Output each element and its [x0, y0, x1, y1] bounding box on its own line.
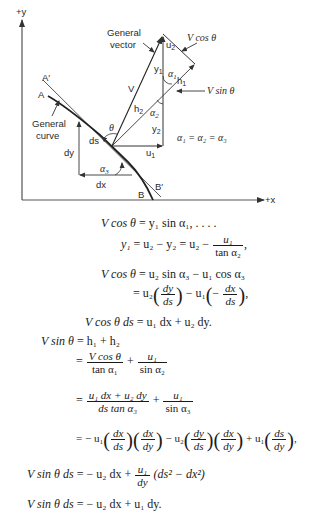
y1-label: y1 [154, 63, 163, 75]
equation-3: V cos θ = u₂ sin α₃ − u₁ cos α₃ [101, 268, 245, 280]
equation-5: V cos θ ds = u₁ dx + u₂ dy. [85, 316, 212, 328]
fraction: u₁tan α₂ [213, 233, 243, 258]
y-axis-label: +y [16, 6, 27, 17]
v-cos-theta-label: V cos θ [187, 32, 216, 43]
equation-1: V cos θ = y₁ sin α₁, . . . . [101, 217, 216, 229]
equation-9: = − u₁(dxds)(dxdy) − u₂(dyds)(dxdy) + u₁… [76, 427, 297, 452]
h2-label: h2 [134, 103, 143, 115]
ds-arrow [102, 137, 112, 146]
vector-diagram: +y +x A′ A B′ B General curve dy dx α3 d… [0, 0, 323, 212]
ds-label: ds [89, 135, 99, 146]
equation-8: = u₁ dx + u₂ dyds tan α₃ + u₁sin α₃ [76, 389, 194, 414]
v-label: V [128, 83, 135, 94]
label-b: B [138, 189, 144, 200]
equation-4: = u₂(dyds) − u₁(− dxds), [133, 282, 248, 307]
label-a: A [38, 89, 45, 100]
equation-2: y₁ = u₂ − y₂ = u₂ − u₁tan α₂, [121, 233, 247, 258]
equation-10: V sin θ ds = − u₂ dx + u₁dy (ds² − dx²) [27, 463, 205, 488]
alpha-equality-label: α₁ = α₂ = α₃ [177, 132, 227, 143]
alpha1-label: α1 [168, 68, 177, 81]
h1-label: h1 [177, 75, 186, 87]
alpha2-label: α2 [150, 107, 159, 120]
equations-block: V cos θ = y₁ sin α₁, . . . . y₁ = u₂ − y… [0, 212, 323, 516]
x-axis-label: +x [265, 194, 276, 205]
general-vector-label-line1: General [107, 27, 141, 38]
equation-7: = V cos θtan α₁ + u₁sin α₂ [76, 350, 168, 375]
label-b-prime: B′ [155, 181, 163, 192]
alpha3-label: α3 [100, 163, 109, 176]
general-vector-label-line2: vector [110, 39, 136, 50]
equation-11: V sin θ ds = − u₂ dx + u₁ dy. [27, 498, 162, 510]
v-sin-theta-label: V sin θ [207, 85, 235, 96]
u1-label: u1 [146, 147, 155, 159]
general-curve-label-line1: General [32, 118, 66, 129]
equation-6: V sin θ = h₁ + h₂ [41, 335, 120, 347]
dx-label: dx [96, 179, 106, 190]
general-curve-label-line2: curve [36, 130, 59, 141]
dy-label: dy [64, 147, 74, 158]
y2-label: y2 [152, 123, 161, 135]
label-a-prime: A′ [42, 72, 50, 83]
theta-label: θ [109, 122, 114, 133]
